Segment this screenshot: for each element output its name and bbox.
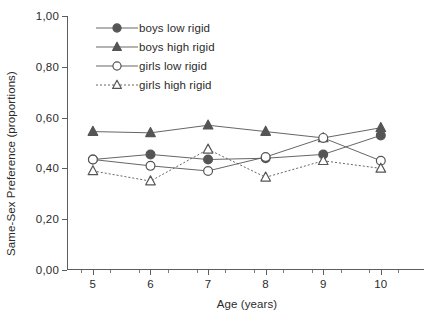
series-boys-low-rigid — [89, 131, 386, 164]
data-point-filled-triangle — [203, 120, 213, 129]
data-point-open-triangle — [261, 172, 271, 181]
series-line — [93, 135, 381, 159]
data-point-open-triangle — [203, 144, 213, 153]
x-tick-minor — [398, 270, 399, 273]
legend-label: boys high rigid — [139, 41, 215, 53]
chart-figure: Same-Sex Preference (proportions) 0,000,… — [0, 0, 434, 327]
data-point-open-triangle — [113, 80, 122, 88]
y-tick-label: 1,00 — [36, 10, 59, 22]
x-tick-minor — [369, 270, 370, 273]
x-tick-minor — [81, 270, 82, 273]
data-point-open-triangle — [146, 176, 156, 185]
x-axis-title: Age (years) — [67, 298, 427, 310]
series-girls-low-rigid — [89, 134, 386, 176]
data-point-open-triangle — [88, 166, 98, 175]
x-tick-minor — [225, 270, 226, 273]
data-point-open-circle — [89, 155, 98, 164]
data-point-open-circle — [319, 134, 328, 143]
data-point-open-circle — [261, 153, 270, 162]
x-tick-minor — [139, 270, 140, 273]
series-boys-high-rigid — [88, 120, 385, 142]
x-tick-mark — [266, 270, 267, 275]
data-point-filled-circle — [204, 155, 213, 164]
data-point-filled-circle — [113, 23, 121, 31]
x-tick-minor — [283, 270, 284, 273]
legend-marker-open-circle — [95, 58, 139, 74]
data-point-open-triangle — [376, 163, 386, 172]
x-tick-minor — [197, 270, 198, 273]
legend-label: girls high rigid — [139, 79, 212, 91]
x-tick-minor — [341, 270, 342, 273]
series-girls-high-rigid — [88, 144, 385, 185]
chart-legend: boys low rigidboys high rigidgirls low r… — [95, 18, 245, 94]
y-tick-label: 0,40 — [36, 162, 59, 174]
data-point-open-circle — [146, 161, 155, 170]
data-point-open-circle — [204, 167, 213, 176]
data-point-filled-circle — [376, 131, 385, 140]
y-tick-label: 0,60 — [36, 112, 59, 124]
legend-label: girls low rigid — [139, 60, 207, 72]
series-line — [93, 125, 381, 138]
x-tick-minor — [110, 270, 111, 273]
x-tick-label: 8 — [262, 278, 269, 290]
x-tick-mark — [150, 270, 151, 275]
x-tick-mark — [208, 270, 209, 275]
legend-item: boys high rigid — [95, 37, 245, 56]
x-tick-minor — [254, 270, 255, 273]
x-tick-label: 6 — [147, 278, 154, 290]
x-tick-minor — [312, 270, 313, 273]
x-tick-minor — [168, 270, 169, 273]
legend-marker-open-triangle — [95, 77, 139, 93]
data-point-filled-circle — [146, 150, 155, 159]
legend-item: boys low rigid — [95, 18, 245, 37]
legend-marker-filled-triangle — [95, 39, 139, 55]
series-line — [93, 138, 381, 171]
legend-item: girls low rigid — [95, 56, 245, 75]
data-point-filled-triangle — [113, 42, 122, 50]
x-tick-label: 9 — [320, 278, 327, 290]
x-tick-label: 7 — [205, 278, 212, 290]
x-tick-mark — [381, 270, 382, 275]
y-tick-label: 0,80 — [36, 61, 59, 73]
series-line — [93, 149, 381, 181]
y-tick-label: 0,20 — [36, 213, 59, 225]
legend-item: girls high rigid — [95, 75, 245, 94]
legend-marker-filled-circle — [95, 20, 139, 36]
x-tick-mark — [93, 270, 94, 275]
legend-label: boys low rigid — [139, 22, 210, 34]
y-tick-mark — [62, 270, 67, 271]
x-tick-label: 10 — [374, 278, 387, 290]
x-tick-label: 5 — [90, 278, 97, 290]
data-point-open-circle — [113, 61, 121, 69]
y-tick-label: 0,00 — [36, 264, 59, 276]
data-point-filled-triangle — [376, 123, 386, 132]
x-tick-mark — [323, 270, 324, 275]
y-axis-title: Same-Sex Preference (proportions) — [0, 0, 22, 327]
data-point-filled-triangle — [88, 126, 98, 135]
